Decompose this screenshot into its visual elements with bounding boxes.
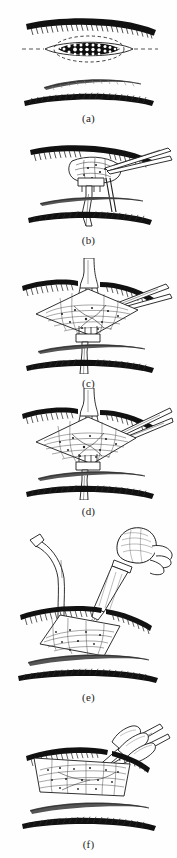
open-wound-bed <box>36 417 136 464</box>
panel-b-illustration <box>0 134 177 230</box>
bulb-syringe <box>92 528 172 620</box>
panel-e-illustration <box>0 520 177 686</box>
rake-retractor <box>78 178 104 226</box>
figure-sheet: (a) <box>0 0 177 858</box>
figure-panel-b <box>0 134 177 226</box>
open-wound-bed <box>36 289 138 336</box>
panel-d-illustration <box>0 388 177 500</box>
panel-c-illustration <box>0 258 177 374</box>
panel-a-illustration <box>0 8 177 108</box>
lower-tissue-layer <box>24 93 154 106</box>
figure-panel-f <box>0 722 177 830</box>
lower-tissue-layer <box>26 485 154 499</box>
fascia-band <box>30 802 149 814</box>
necrotic-lesion <box>58 43 120 56</box>
panel-f-illustration <box>0 722 177 834</box>
figure-panel-e <box>0 520 177 680</box>
figure-panel-c <box>0 258 177 370</box>
panel-caption-f: (f) <box>0 838 177 850</box>
panel-caption-b: (b) <box>0 234 177 246</box>
open-wound-bed <box>40 615 120 656</box>
figure-panel-a <box>0 8 177 108</box>
fascia-band <box>38 471 145 481</box>
secondary-instrument-shaft <box>106 178 116 212</box>
figure-panel-d <box>0 388 177 496</box>
lower-tissue-layer <box>18 669 158 683</box>
suction-cannula <box>30 534 64 618</box>
panel-caption-d: (d) <box>0 505 177 517</box>
lower-tissue-layer <box>22 817 156 831</box>
panel-caption-e: (e) <box>0 691 177 703</box>
panel-caption-a: (a) <box>0 112 177 124</box>
fascia-band <box>38 344 145 354</box>
fascia-band <box>44 79 141 90</box>
lower-tissue-layer <box>26 359 154 373</box>
upper-skin-edge <box>26 18 156 38</box>
fascia-band <box>28 654 149 666</box>
open-wound-bed <box>34 758 130 796</box>
